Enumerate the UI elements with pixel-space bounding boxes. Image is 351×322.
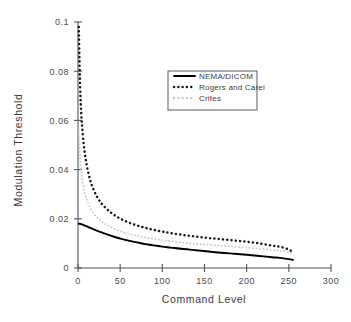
x-tick-label: 50 — [115, 276, 126, 286]
chart-figure: 00.020.040.060.080.1 050100150200250300 … — [0, 0, 351, 322]
y-tick-label: 0 — [63, 263, 69, 273]
y-tick-label: 0.06 — [49, 116, 69, 126]
series-line-rogers-and-carel — [79, 27, 293, 253]
chart-legend: NEMA/DICOMRogers and CarelCrites — [168, 71, 265, 110]
legend-label: NEMA/DICOM — [199, 72, 253, 81]
y-tick-label: 0.1 — [55, 17, 69, 27]
y-tick-label: 0.08 — [49, 67, 69, 77]
chart-series-layer — [79, 27, 293, 260]
series-line-nema-dicom — [79, 224, 293, 260]
y-axis-tick-labels: 00.020.040.060.080.1 — [49, 17, 69, 273]
line-chart: 00.020.040.060.080.1 050100150200250300 … — [0, 0, 351, 322]
x-axis-title: Command Level — [162, 293, 246, 305]
x-tick-label: 200 — [238, 276, 255, 286]
y-tick-label: 0.02 — [49, 214, 69, 224]
legend-label: Crites — [199, 94, 221, 103]
y-tick-label: 0.04 — [49, 165, 69, 175]
y-axis-title: Modulation Threshold — [12, 94, 24, 207]
legend-label: Rogers and Carel — [199, 83, 265, 92]
x-tick-label: 0 — [75, 276, 81, 286]
x-tick-label: 150 — [196, 276, 213, 286]
x-tick-label: 100 — [154, 276, 171, 286]
x-tick-label: 300 — [323, 276, 340, 286]
x-tick-label: 250 — [281, 276, 298, 286]
chart-axes — [78, 22, 331, 268]
x-axis-tick-labels: 050100150200250300 — [75, 276, 339, 286]
